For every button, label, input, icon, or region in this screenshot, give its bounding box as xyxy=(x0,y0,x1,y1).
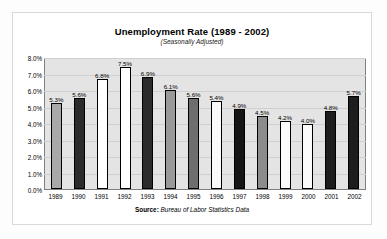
x-axis-tick-label: 1991 xyxy=(90,193,113,200)
bar: 4.2% xyxy=(280,121,291,189)
x-axis-tick-label: 1990 xyxy=(67,193,90,200)
bar: 6.8% xyxy=(97,79,108,190)
x-axis-tick-label: 1998 xyxy=(251,193,274,200)
y-axis-tick-label: 0.0% xyxy=(15,187,42,194)
bar-value-label: 5.3% xyxy=(49,96,63,103)
bar: 5.3% xyxy=(51,103,62,189)
bar: 5.6% xyxy=(74,98,85,189)
bar-value-label: 4.2% xyxy=(278,114,292,121)
x-axis-tick-label: 1994 xyxy=(159,193,182,200)
bar-slot: 4.9% xyxy=(228,59,251,189)
bar-slot: 6.8% xyxy=(91,59,114,189)
x-axis-tick-label: 2000 xyxy=(297,193,320,200)
x-axis-tick-label: 2002 xyxy=(343,193,366,200)
y-axis-tick-label: 2.0% xyxy=(15,154,42,161)
y-axis-tick-label: 5.0% xyxy=(15,104,42,111)
bar: 4.9% xyxy=(234,109,245,189)
x-axis-tick-label: 1996 xyxy=(205,193,228,200)
bar: 6.9% xyxy=(142,77,153,189)
x-axis-tick-label: 2001 xyxy=(320,193,343,200)
y-axis-tick-label: 8.0% xyxy=(15,55,42,62)
bar-slot: 5.6% xyxy=(182,59,205,189)
bar-value-label: 7.5% xyxy=(118,60,132,67)
bar-slot: 5.3% xyxy=(45,59,68,189)
bar-value-label: 5.7% xyxy=(347,89,361,96)
x-axis-tick-label: 1999 xyxy=(274,193,297,200)
bar-value-label: 6.9% xyxy=(141,70,155,77)
bar-value-label: 4.5% xyxy=(255,109,269,116)
bar-value-label: 5.4% xyxy=(209,94,223,101)
bar: 5.7% xyxy=(348,96,359,189)
bar-slot: 6.1% xyxy=(159,59,182,189)
page-root: Unemployment Rate (1989 - 2002) (Seasona… xyxy=(0,0,387,239)
bar: 7.5% xyxy=(120,67,131,189)
bar-slot: 4.8% xyxy=(319,59,342,189)
y-axis-tick-label: 6.0% xyxy=(15,88,42,95)
bar-slot: 7.5% xyxy=(114,59,137,189)
bar: 5.4% xyxy=(211,101,222,189)
source-text: Bureau of Labor Statistics Data xyxy=(161,206,249,213)
y-axis-tick-label: 1.0% xyxy=(15,170,42,177)
bar-value-label: 6.8% xyxy=(95,72,109,79)
y-axis-tick-label: 4.0% xyxy=(15,121,42,128)
bar: 4.5% xyxy=(257,116,268,189)
bar-value-label: 4.9% xyxy=(232,102,246,109)
y-axis-tick-label: 3.0% xyxy=(15,137,42,144)
bar: 5.6% xyxy=(188,98,199,189)
x-axis-tick-label: 1993 xyxy=(136,193,159,200)
bar-slot: 5.6% xyxy=(68,59,91,189)
bar-value-label: 4.0% xyxy=(301,117,315,124)
bar-slot: 4.2% xyxy=(274,59,297,189)
source-label: Source: xyxy=(135,206,159,213)
bar-value-label: 6.1% xyxy=(164,83,178,90)
x-axis-tick-label: 1989 xyxy=(44,193,67,200)
bar-slot: 5.7% xyxy=(342,59,365,189)
bar: 4.0% xyxy=(302,124,313,189)
bar-slot: 6.9% xyxy=(136,59,159,189)
bar-slot: 5.4% xyxy=(205,59,228,189)
x-axis-tick-label: 1992 xyxy=(113,193,136,200)
chart-title: Unemployment Rate (1989 - 2002) xyxy=(13,26,371,37)
bar-value-label: 5.6% xyxy=(187,91,201,98)
bar: 4.8% xyxy=(325,111,336,189)
x-axis-tick-label: 1995 xyxy=(182,193,205,200)
x-axis: 1989199019911992199319941995199619971998… xyxy=(44,193,366,200)
y-axis-tick-label: 7.0% xyxy=(15,71,42,78)
bars-layer: 5.3%5.6%6.8%7.5%6.9%6.1%5.6%5.4%4.9%4.5%… xyxy=(45,59,365,189)
chart-card: Unemployment Rate (1989 - 2002) (Seasona… xyxy=(12,12,372,225)
bar-value-label: 5.6% xyxy=(72,91,86,98)
bar-slot: 4.0% xyxy=(296,59,319,189)
bar-value-label: 4.8% xyxy=(324,104,338,111)
y-axis: 8.0%7.0%6.0%5.0%4.0%3.0%2.0%1.0%0.0% xyxy=(15,58,42,190)
bar-slot: 4.5% xyxy=(251,59,274,189)
source-note: Source: Bureau of Labor Statistics Data xyxy=(13,206,371,213)
bar: 6.1% xyxy=(165,90,176,189)
chart-subtitle: (Seasonally Adjusted) xyxy=(13,38,371,45)
x-axis-tick-label: 1997 xyxy=(228,193,251,200)
plot-wrapper: 8.0%7.0%6.0%5.0%4.0%3.0%2.0%1.0%0.0% 5.3… xyxy=(44,58,366,190)
